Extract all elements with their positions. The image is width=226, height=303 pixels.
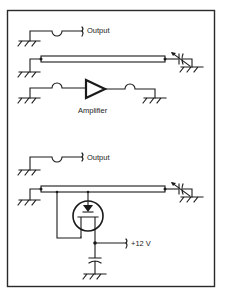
ground-icon (18, 98, 40, 103)
top-panel: Output (18, 26, 203, 115)
output-brace-icon (82, 27, 83, 36)
ground-icon (143, 98, 166, 103)
output-brace-icon (82, 153, 83, 161)
ground-icon (83, 274, 106, 279)
output-line-2: Output (18, 153, 110, 175)
ground-icon (180, 67, 203, 72)
coax-line-1 (18, 52, 203, 77)
output-line-1: Output (18, 26, 110, 46)
fet-transistor-icon (73, 192, 103, 242)
ground-icon (180, 197, 203, 202)
supply-brace-icon (126, 239, 127, 248)
bypass-capacitor-icon (89, 243, 101, 274)
ground-icon (18, 41, 40, 46)
amplifier-line: Amplifier (18, 80, 166, 115)
coax-cable (41, 56, 165, 62)
output-label: Output (87, 153, 110, 162)
supply-label: +12 V (131, 239, 151, 248)
figure-frame (8, 11, 215, 287)
gate-wire (57, 192, 81, 238)
coax-cable (41, 186, 165, 192)
amplifier-label: Amplifier (78, 106, 108, 115)
ground-icon (18, 72, 40, 77)
bottom-panel: Output (18, 153, 203, 279)
ground-icon (18, 200, 40, 205)
coax-line-2 (18, 182, 203, 205)
ground-icon (18, 170, 40, 175)
amplifier-icon (86, 80, 105, 98)
circuit-diagram: Output (0, 0, 226, 303)
output-label: Output (87, 26, 110, 35)
